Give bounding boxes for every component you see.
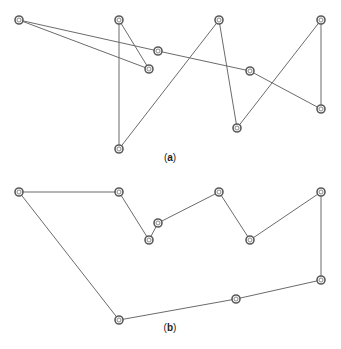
node-circle-icon — [154, 219, 162, 227]
node-circle-icon — [115, 316, 123, 324]
edge — [219, 192, 250, 240]
node-circle-icon — [317, 276, 325, 284]
edge — [19, 192, 119, 320]
node-circle-icon — [246, 236, 254, 244]
node-circle-icon — [215, 16, 223, 24]
node-circle-icon — [317, 188, 325, 196]
node-circle-icon — [115, 188, 123, 196]
node-circle-icon — [145, 65, 153, 73]
edge — [158, 51, 250, 71]
caption-b: (b) — [164, 322, 177, 333]
node-circle-icon — [115, 16, 123, 24]
edge — [250, 192, 321, 240]
tour-diagram-canvas — [0, 0, 341, 349]
node-circle-icon — [115, 145, 123, 153]
node-circle-icon — [154, 47, 162, 55]
node-circle-icon — [15, 16, 23, 24]
caption-b-close: ) — [173, 322, 176, 333]
node-circle-icon — [317, 16, 325, 24]
edge — [119, 299, 236, 320]
node-circle-icon — [215, 188, 223, 196]
edge — [158, 192, 219, 223]
edge — [119, 20, 219, 149]
edge — [219, 20, 237, 128]
edge — [250, 71, 321, 109]
panel-b — [15, 188, 325, 324]
caption-a: (a) — [164, 152, 176, 163]
edge — [119, 192, 149, 240]
node-circle-icon — [317, 105, 325, 113]
caption-a-close: ) — [173, 152, 176, 163]
node-circle-icon — [233, 124, 241, 132]
edge — [119, 20, 149, 69]
node-circle-icon — [145, 236, 153, 244]
node-circle-icon — [15, 188, 23, 196]
panel-a — [15, 16, 325, 153]
edge — [236, 280, 321, 299]
node-circle-icon — [246, 67, 254, 75]
node-circle-icon — [232, 295, 240, 303]
